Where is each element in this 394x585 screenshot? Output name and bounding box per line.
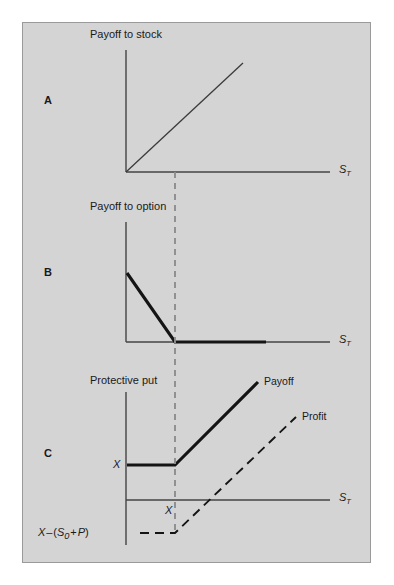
breakeven-close-paren: ) <box>85 526 89 538</box>
panel-a-title: Payoff to stock <box>90 28 162 40</box>
panel-b-title: Payoff to option <box>90 200 166 212</box>
panel-a-graphics <box>126 50 330 172</box>
panel-b-graphics <box>126 222 330 342</box>
panel-a-stock-payoff-line <box>126 63 243 172</box>
panel-a-x-axis-label-sub: T <box>346 169 351 178</box>
panel-c-payoff-label: Payoff <box>264 375 294 387</box>
panel-a-x-axis-label: ST <box>339 163 351 178</box>
panel-letter-c: C <box>44 447 52 459</box>
figure-graphics <box>0 0 394 585</box>
panel-c-strike-tick-label: X <box>165 504 172 516</box>
panel-c-breakeven-label: X – (S0 + P) <box>38 526 89 541</box>
panel-c-graphics <box>126 382 330 545</box>
panel-c-profit-line <box>140 417 296 533</box>
panel-c-profit-label: Profit <box>302 410 327 422</box>
panel-letter-a: A <box>44 94 52 106</box>
panel-c-x-axis-label: ST <box>339 491 351 506</box>
panel-c-strike-level-label: X <box>113 458 120 470</box>
panel-c-payoff-line <box>127 382 258 465</box>
panel-b-put-payoff-line <box>127 273 266 342</box>
panel-letter-b: B <box>44 266 52 278</box>
breakeven-premium: P <box>78 526 85 538</box>
panel-c-title: Protective put <box>90 374 157 386</box>
panel-c-x-axis-label-sub: T <box>346 497 351 506</box>
panel-b-x-axis-label-sub: T <box>346 339 351 348</box>
figure-container: A B C Payoff to stock Payoff to option P… <box>0 0 394 585</box>
panel-b-x-axis-label: ST <box>339 333 351 348</box>
